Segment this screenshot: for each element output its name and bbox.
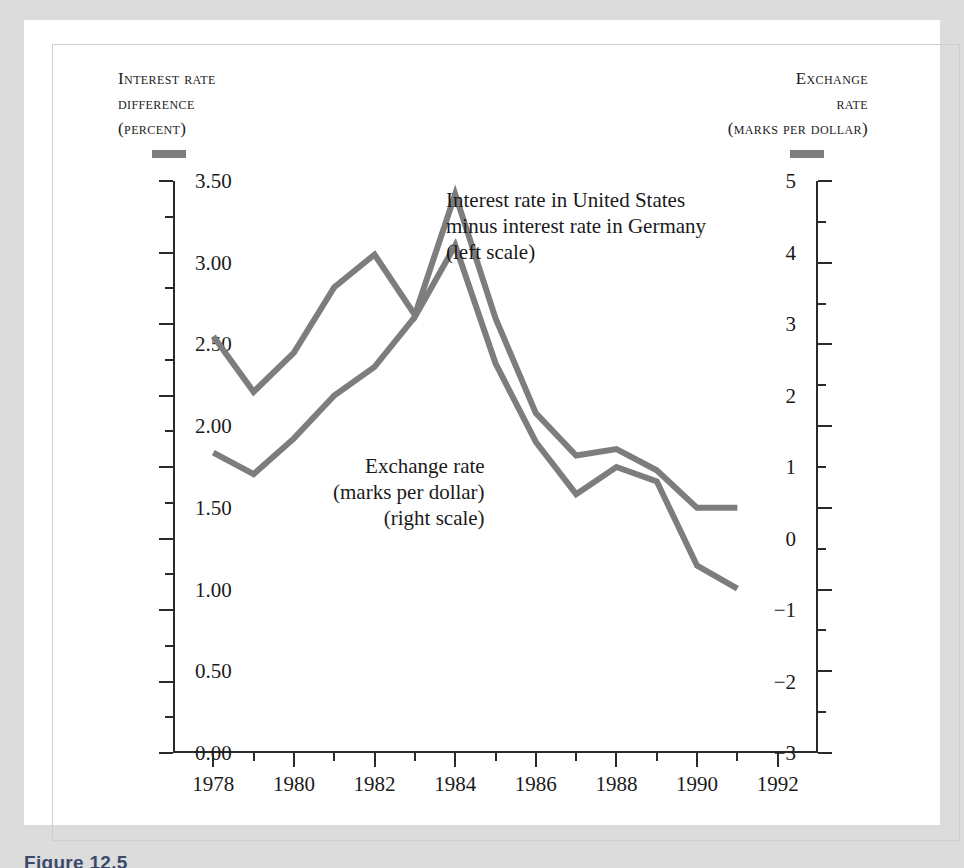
x-axis-major-tick	[293, 753, 295, 767]
left-axis-minor-tick	[165, 645, 173, 647]
left-axis-title-line3: (percent)	[118, 116, 216, 141]
annotation-exchange-rate: Exchange rate (marks per dollar) (right …	[333, 453, 485, 531]
left-axis-minor-tick	[165, 359, 173, 361]
figure-caption: Figure 12.5	[24, 850, 128, 868]
x-axis-tick-label: 1982	[354, 772, 396, 797]
x-axis-tick-label: 1986	[515, 772, 557, 797]
annotation-interest-line3: (left scale)	[446, 239, 706, 265]
x-axis-minor-tick	[333, 753, 335, 761]
annotation-exchange-line1: Exchange rate	[333, 453, 485, 479]
right-axis-minor-tick	[818, 629, 826, 631]
right-axis-major-tick	[818, 262, 832, 264]
plot-area: 543210−1−2−3 3.503.002.502.001.501.000.5…	[173, 181, 818, 753]
left-axis-major-tick	[159, 466, 173, 468]
x-axis-minor-tick	[495, 753, 497, 761]
left-axis-title-line2: difference	[118, 91, 216, 116]
left-axis-major-tick	[159, 752, 173, 754]
right-axis-major-tick	[818, 752, 832, 754]
left-axis-minor-tick	[165, 287, 173, 289]
right-axis-title: Exchange rate (marks per dollar)	[728, 66, 868, 141]
x-axis-tick-label: 1988	[595, 772, 637, 797]
right-axis-title-line1: Exchange	[728, 66, 868, 91]
x-axis-tick-label: 1984	[434, 772, 476, 797]
x-axis-tick-label: 1980	[273, 772, 315, 797]
line-interest-rate-difference	[213, 245, 737, 588]
x-axis-minor-tick	[656, 753, 658, 761]
x-axis-major-tick	[777, 753, 779, 767]
left-axis-minor-tick	[165, 502, 173, 504]
annotation-interest-rate: Interest rate in United States minus int…	[446, 187, 706, 265]
right-axis-minor-tick	[818, 303, 826, 305]
left-series-swatch	[152, 150, 186, 158]
annotation-exchange-line3: (right scale)	[333, 505, 485, 531]
right-axis-minor-tick	[818, 466, 826, 468]
x-axis-tick-label: 1992	[757, 772, 799, 797]
figure-page: Interest rate difference (percent) Excha…	[0, 0, 964, 868]
left-axis-major-tick	[159, 538, 173, 540]
left-axis-major-tick	[159, 609, 173, 611]
left-axis-major-tick	[159, 323, 173, 325]
right-axis-minor-tick	[818, 711, 826, 713]
right-axis-minor-tick	[818, 384, 826, 386]
x-axis-minor-tick	[253, 753, 255, 761]
x-axis-major-tick	[615, 753, 617, 767]
x-axis-major-tick	[374, 753, 376, 767]
x-axis-major-tick	[212, 753, 214, 767]
left-axis-minor-tick	[165, 430, 173, 432]
right-series-swatch	[790, 150, 824, 158]
right-axis-title-line2: rate	[728, 91, 868, 116]
right-axis-title-line3: (marks per dollar)	[728, 116, 868, 141]
left-axis-major-tick	[159, 180, 173, 182]
series-lines	[173, 181, 818, 753]
annotation-interest-line1: Interest rate in United States	[446, 187, 706, 213]
right-axis-major-tick	[818, 343, 832, 345]
right-axis-major-tick	[818, 589, 832, 591]
x-axis-major-tick	[535, 753, 537, 767]
annotation-interest-line2: minus interest rate in Germany	[446, 213, 706, 239]
annotation-exchange-line2: (marks per dollar)	[333, 479, 485, 505]
left-axis-minor-tick	[165, 716, 173, 718]
left-axis-major-tick	[159, 395, 173, 397]
left-axis-title-line1: Interest rate	[118, 66, 216, 91]
right-axis-minor-tick	[818, 548, 826, 550]
x-axis-minor-tick	[736, 753, 738, 761]
left-axis-major-tick	[159, 252, 173, 254]
x-axis-minor-tick	[575, 753, 577, 761]
x-axis-tick-label: 1978	[192, 772, 234, 797]
x-axis-major-tick	[696, 753, 698, 767]
right-axis-major-tick	[818, 670, 832, 672]
left-axis-major-tick	[159, 681, 173, 683]
x-axis-minor-tick	[414, 753, 416, 761]
left-axis-minor-tick	[165, 573, 173, 575]
right-axis-major-tick	[818, 507, 832, 509]
right-axis-minor-tick	[818, 221, 826, 223]
right-axis-major-tick	[818, 425, 832, 427]
left-axis-minor-tick	[165, 216, 173, 218]
x-axis-major-tick	[454, 753, 456, 767]
x-axis-tick-label: 1990	[676, 772, 718, 797]
left-axis-title: Interest rate difference (percent)	[118, 66, 216, 141]
right-axis-major-tick	[818, 180, 832, 182]
